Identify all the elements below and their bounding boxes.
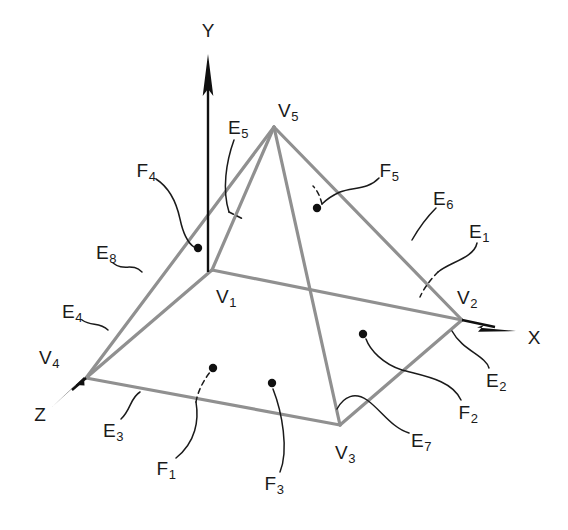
vertex-label-V3-sub: 3 [348, 451, 355, 466]
leader-F1 [176, 402, 197, 458]
leader-E6 [412, 208, 436, 240]
face-dot-F1 [209, 364, 217, 372]
edge-label-E1: E1 [469, 222, 489, 241]
x-axis-line [462, 320, 495, 327]
edge-label-E4: E4 [62, 302, 82, 321]
axis-label-z: Z [34, 405, 46, 424]
face-label-F2: F2 [459, 403, 478, 422]
edge-E2-V2-V3 [340, 320, 462, 425]
leader-E7 [337, 396, 409, 433]
edge-label-E4-base: E [62, 301, 75, 322]
edge-label-E8-sub: 8 [109, 251, 116, 266]
leader-E4 [82, 320, 108, 330]
edge-E4-V4-V1 [86, 270, 212, 378]
axis-label-y: Y [202, 21, 215, 40]
vertex-label-V3-base: V [335, 442, 348, 463]
edge-label-E7-base: E [411, 430, 424, 451]
axis-label-x: X [528, 328, 541, 347]
leader-dash-F5 [313, 186, 322, 204]
vertex-label-V4-base: V [39, 347, 52, 368]
diagram-canvas [0, 0, 568, 530]
edge-label-E7-sub: 7 [424, 439, 431, 454]
face-label-F4: F4 [137, 161, 156, 180]
vertex-label-V1-sub: 1 [229, 295, 236, 310]
vertex-label-V1-base: V [216, 286, 229, 307]
leader-E8 [113, 263, 142, 272]
edge-E7-V3-V5 [274, 127, 340, 425]
face-label-F1: F1 [157, 459, 176, 478]
face-label-F1-sub: 1 [169, 467, 176, 482]
face-label-F5-base: F [380, 160, 392, 181]
edge-label-E3: E3 [103, 421, 123, 440]
vertex-label-V4: V4 [39, 348, 59, 367]
face-label-F3-sub: 3 [277, 482, 284, 497]
face-label-F4-base: F [137, 160, 149, 181]
face-label-F3-base: F [265, 473, 277, 494]
edge-label-E6-base: E [433, 188, 446, 209]
face-label-F2-base: F [459, 402, 471, 423]
edge-E3-V3-V4 [86, 378, 340, 425]
vertex-label-V2-sub: 2 [470, 296, 477, 311]
leader-E5 [225, 140, 234, 212]
edge-label-E5: E5 [228, 118, 248, 137]
leader-lines [82, 140, 489, 472]
vertex-label-V5-sub: 5 [291, 109, 298, 124]
face-label-F5: F5 [380, 161, 399, 180]
z-axis-arrowhead [52, 377, 85, 407]
leader-E1 [438, 243, 477, 272]
face-label-F4-sub: 4 [149, 169, 156, 184]
edge-label-E6: E6 [433, 189, 453, 208]
edge-E6-V2-V5 [274, 127, 462, 320]
pyramid-topology-diagram: Y X Z V1 V2 V3 V4 V5 E1 E2 E3 E4 E5 E6 E… [0, 0, 568, 530]
vertex-label-V5: V5 [278, 101, 298, 120]
edge-label-E2-sub: 2 [499, 379, 506, 394]
x-axis-arrowhead [477, 325, 516, 332]
edge-label-E5-sub: 5 [241, 126, 248, 141]
edge-label-E3-base: E [103, 420, 116, 441]
edge-label-E2: E2 [486, 371, 506, 390]
vertex-label-V2-base: V [457, 287, 470, 308]
leader-F3 [273, 389, 284, 472]
edge-label-E8-base: E [96, 242, 109, 263]
face-dot-F5 [313, 204, 321, 212]
vertex-label-V1: V1 [216, 287, 236, 306]
face-dot-F4 [194, 244, 202, 252]
leader-F4 [156, 179, 194, 247]
face-dot-F2 [359, 330, 367, 338]
edge-label-E7: E7 [411, 431, 431, 450]
edge-E1-V1-V2 [212, 270, 462, 320]
vertex-label-V3: V3 [335, 443, 355, 462]
edge-label-E5-base: E [228, 117, 241, 138]
vertex-label-V4-sub: 4 [52, 356, 59, 371]
vertex-label-V5-base: V [278, 100, 291, 121]
edge-label-E8: E8 [96, 243, 116, 262]
face-dot-F3 [268, 379, 276, 387]
edge-label-E1-base: E [469, 221, 482, 242]
face-label-F3: F3 [265, 474, 284, 493]
edge-label-E3-sub: 3 [116, 429, 123, 444]
edge-label-E1-sub: 1 [482, 230, 489, 245]
edge-label-E2-base: E [486, 370, 499, 391]
edge-label-E4-sub: 4 [75, 310, 82, 325]
face-label-F5-sub: 5 [392, 169, 399, 184]
leader-E2 [452, 331, 489, 368]
face-label-F2-sub: 2 [471, 411, 478, 426]
vertex-label-V2: V2 [457, 288, 477, 307]
leader-E3 [121, 392, 140, 419]
edge-label-E6-sub: 6 [446, 197, 453, 212]
face-label-F1-base: F [157, 458, 169, 479]
leader-F5 [322, 178, 379, 204]
